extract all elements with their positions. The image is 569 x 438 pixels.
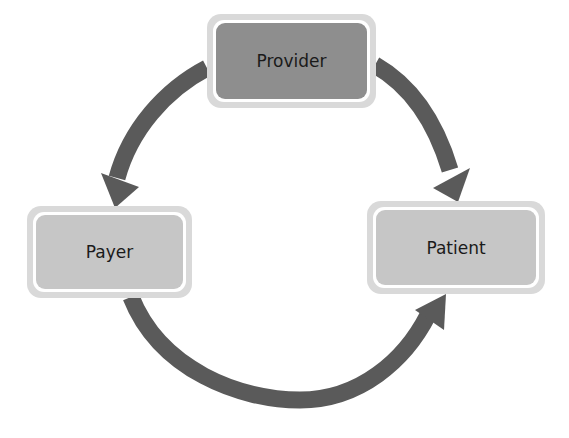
node-patient-ring: Patient (373, 207, 539, 288)
arrow-payer-to-patient-shaft (131, 297, 428, 400)
node-provider-label: Provider (257, 51, 327, 71)
node-patient: Patient (367, 201, 545, 294)
arrow-provider-to-patient-head (433, 168, 470, 202)
node-payer: Payer (27, 206, 192, 298)
node-patient-label: Patient (426, 238, 485, 258)
node-payer-box: Payer (36, 215, 183, 289)
node-payer-ring: Payer (33, 212, 186, 292)
arrow-provider-to-patient (375, 65, 470, 202)
arrow-provider-to-payer-shaft (117, 68, 207, 178)
arrow-provider-to-payer (101, 68, 207, 208)
node-patient-box: Patient (376, 210, 536, 285)
node-payer-label: Payer (86, 242, 133, 262)
node-provider: Provider (207, 14, 376, 108)
arrow-payer-to-patient (131, 294, 446, 400)
node-provider-box: Provider (216, 23, 367, 99)
arrow-provider-to-patient-shaft (375, 65, 450, 170)
node-provider-ring: Provider (213, 20, 370, 102)
